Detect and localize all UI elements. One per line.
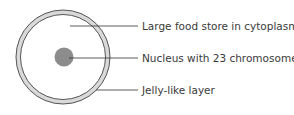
label-nucleus: Nucleus with 23 chromosomes bbox=[142, 52, 294, 64]
nucleus bbox=[55, 48, 74, 67]
label-cytoplasm: Large food store in cytoplasm bbox=[142, 20, 294, 32]
label-jelly-layer: Jelly-like layer bbox=[142, 84, 215, 96]
